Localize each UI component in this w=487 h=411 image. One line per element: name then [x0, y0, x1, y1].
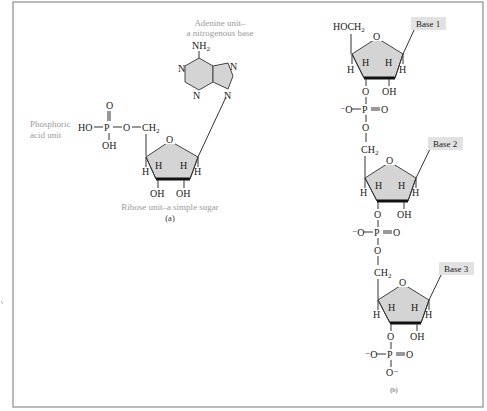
base-3-label: Base 3 [444, 264, 469, 274]
nucleotide-figure: Adenine unit– a nitrogenous base NH2 N N… [0, 0, 487, 411]
oh-c3-a: OH [150, 188, 164, 199]
o-double-3: O [406, 349, 413, 360]
base-1-label: Base 1 [416, 19, 440, 29]
phosphate-p: P [104, 122, 110, 133]
phosphodiester-2: ⁻O P O O [352, 220, 400, 265]
h-2a: H [360, 187, 367, 198]
ch2-2: CH2 [361, 144, 379, 157]
h-3d: H [425, 309, 432, 320]
nucleotide-3: CH2 O Base 3 H H H H OH O [373, 262, 474, 342]
h-1b: H [362, 57, 369, 68]
glycosidic-bond [198, 97, 226, 157]
terminal-phosphate: ⁻O P O O⁻ [365, 342, 413, 378]
o3-1: O [362, 86, 369, 97]
h-2b: H [375, 180, 382, 191]
panel-a-label: (a) [165, 213, 175, 223]
panel-a: Adenine unit– a nitrogenous base NH2 N N… [30, 18, 253, 223]
ribose-caption: Ribose unit–a simple sugar [121, 202, 219, 212]
hoch2-group: HOCH2 [333, 21, 365, 34]
h-c2-a: H [180, 160, 187, 171]
adenine-ring: N N N N [178, 58, 237, 101]
h-3a: H [373, 309, 380, 320]
ch2-a: CH2 [142, 122, 160, 135]
ribose-ring-a: O H H H H OH OH [142, 134, 201, 199]
h-2c: H [398, 180, 405, 191]
phosphate-oh: OH [102, 140, 116, 151]
ring-oxygen-1: O [373, 31, 380, 42]
base-2-label: Base 2 [433, 139, 457, 149]
panel-b: HOCH2 O Base 1 H H H H OH O ⁻O [333, 17, 474, 394]
figure-container: Adenine unit– a nitrogenous base NH2 N N… [0, 0, 487, 411]
phosphoric-caption-line1: Phosphoric [30, 119, 71, 129]
ring-oxygen-3: O [399, 277, 406, 288]
phosphodiester-1: ⁻O P O O [340, 97, 388, 142]
phosphoric-caption-line2: acid unit [30, 130, 62, 140]
oh-c2-a: OH [176, 188, 190, 199]
o-minus-1: ⁻O [340, 104, 353, 115]
atom-n1: N [178, 63, 185, 74]
h-1c: H [385, 57, 392, 68]
atom-n3: N [193, 90, 200, 101]
oh-3: OH [410, 331, 424, 342]
adenine-caption-line2: a nitrogenous base [187, 28, 254, 38]
atom-n7: N [230, 61, 237, 72]
h-1d: H [399, 64, 406, 75]
margin-mark [1, 301, 3, 304]
o-minus-2: ⁻O [352, 227, 365, 238]
h-c3-a: H [155, 160, 162, 171]
o3-2: O [374, 209, 381, 220]
h-3b: H [388, 302, 395, 313]
nucleotide-2: CH2 O Base 2 H H H H OH O [360, 137, 463, 220]
p-1: P [362, 104, 368, 115]
phosphate-group-a: O HO P O CH2 OH [78, 100, 160, 151]
amino-group: NH2 [192, 40, 210, 53]
h-c4-a: H [142, 166, 149, 177]
h-1a: H [347, 64, 354, 75]
ring-oxygen-a: O [166, 134, 173, 145]
o-minus-3: ⁻O [365, 349, 378, 360]
phosphate-o-top: O [106, 100, 113, 111]
o-minus-terminal: O⁻ [386, 367, 399, 378]
oh-2: OH [397, 209, 411, 220]
p-3: P [387, 349, 393, 360]
figure-frame [13, 2, 483, 407]
oh-1: OH [382, 86, 396, 97]
p-2: P [374, 227, 380, 238]
panel-b-label: (b) [390, 386, 398, 394]
h-c1-a: H [194, 166, 201, 177]
o5-3: O [374, 245, 381, 256]
phosphate-ester-o: O [123, 122, 130, 133]
o5-2: O [362, 122, 369, 133]
o3-3: O [387, 331, 394, 342]
h-2d: H [412, 187, 419, 198]
ch2-3: CH2 [374, 267, 392, 280]
adenine-caption-line1: Adenine unit– [194, 18, 246, 28]
ring-oxygen-2: O [386, 155, 393, 166]
h-3c: H [411, 302, 418, 313]
o-double-1: O [381, 104, 388, 115]
o-double-2: O [393, 227, 400, 238]
phosphate-ho: HO [78, 122, 92, 133]
